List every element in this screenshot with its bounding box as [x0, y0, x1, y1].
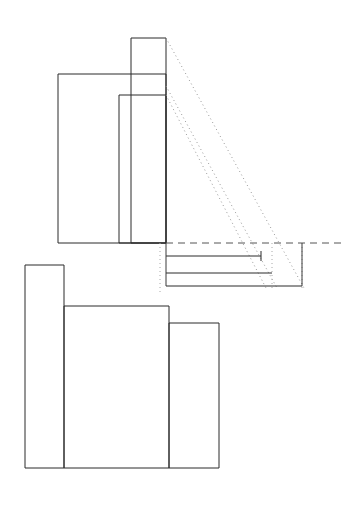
right-rect: [169, 323, 219, 468]
projection-ray-middle: [166, 86, 277, 288]
left-tall-rect: [25, 265, 64, 468]
center-rect: [64, 306, 169, 468]
technical-drawing-canvas: [0, 0, 348, 506]
upper-front-view: [58, 38, 166, 243]
projection-rays: [166, 38, 304, 288]
right-side-detail: [160, 243, 345, 292]
projection-ray-lower: [166, 95, 266, 288]
lower-plan-view: [25, 265, 219, 468]
drawing-surface: [0, 0, 348, 506]
middle-rect: [119, 95, 166, 243]
tall-narrow-rect: [131, 38, 166, 243]
large-left-rect: [58, 74, 166, 243]
projection-ray-top: [166, 38, 304, 288]
